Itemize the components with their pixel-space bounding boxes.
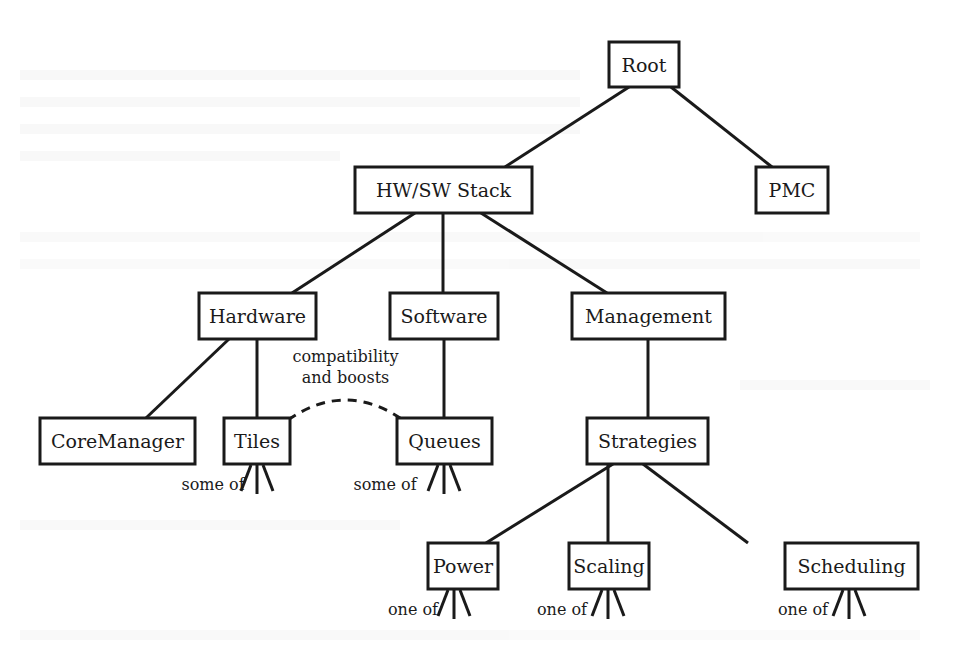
edge-root-pmc [671, 87, 772, 167]
fork-scheduling: one of [778, 590, 865, 619]
group-forks: some ofsome ofone ofone ofone of [181, 465, 865, 619]
node-label: Strategies [598, 430, 697, 452]
node-scheduling: Scheduling [785, 543, 918, 589]
node-label: Queues [408, 430, 480, 452]
fork-branch-right [263, 465, 273, 491]
fork-power: one of [388, 590, 470, 619]
fork-branch-right [855, 590, 865, 616]
node-coremanager: CoreManager [40, 418, 195, 464]
fork-queues: some of [353, 465, 460, 494]
fork-branch-left [428, 465, 438, 491]
node-label: Scaling [573, 555, 645, 577]
node-power: Power [428, 543, 498, 589]
node-label: CoreManager [51, 430, 185, 452]
fork-tiles: some of [181, 465, 273, 494]
fork-branch-left [438, 590, 448, 616]
node-label: Power [433, 555, 494, 577]
node-pmc: PMC [756, 167, 828, 213]
compatibility-relation: compatibilityand boosts [288, 347, 403, 420]
fork-branch-left [592, 590, 602, 616]
feature-tree-diagram: compatibilityand boosts some ofsome ofon… [0, 0, 953, 649]
relation-label-line2: and boosts [302, 368, 390, 387]
node-label: Tiles [234, 430, 280, 452]
node-software: Software [390, 293, 498, 339]
edge-strategies-power [486, 464, 613, 543]
relation-label-line1: compatibility [292, 347, 398, 366]
fork-label: some of [181, 475, 245, 494]
fork-label: one of [537, 600, 588, 619]
node-hardware: Hardware [199, 293, 316, 339]
edge-hwsw-hardware [292, 213, 415, 293]
node-label: Software [400, 305, 487, 327]
edge-hwsw-management [481, 213, 607, 293]
node-label: HW/SW Stack [376, 179, 512, 201]
node-label: PMC [769, 179, 816, 201]
fork-branch-left [833, 590, 843, 616]
edge-strategies-scheduling [643, 464, 748, 543]
node-label: Management [585, 305, 712, 327]
fork-label: one of [778, 600, 829, 619]
fork-label: some of [353, 475, 417, 494]
node-queues: Queues [397, 418, 492, 464]
fork-branch-right [450, 465, 460, 491]
node-label: Root [622, 54, 667, 76]
fork-branch-right [614, 590, 624, 616]
node-management: Management [572, 293, 725, 339]
node-scaling: Scaling [569, 543, 649, 589]
node-strategies: Strategies [587, 418, 708, 464]
edge-hardware-coremanager [146, 339, 229, 418]
node-label: Scheduling [797, 555, 905, 577]
node-hwsw: HW/SW Stack [355, 167, 532, 213]
node-tiles: Tiles [224, 418, 290, 464]
node-label: Hardware [209, 305, 306, 327]
dashed-relation-line [288, 400, 403, 420]
fork-branch-right [460, 590, 470, 616]
node-root: Root [609, 42, 679, 87]
fork-label: one of [388, 600, 439, 619]
fork-scaling: one of [537, 590, 624, 619]
